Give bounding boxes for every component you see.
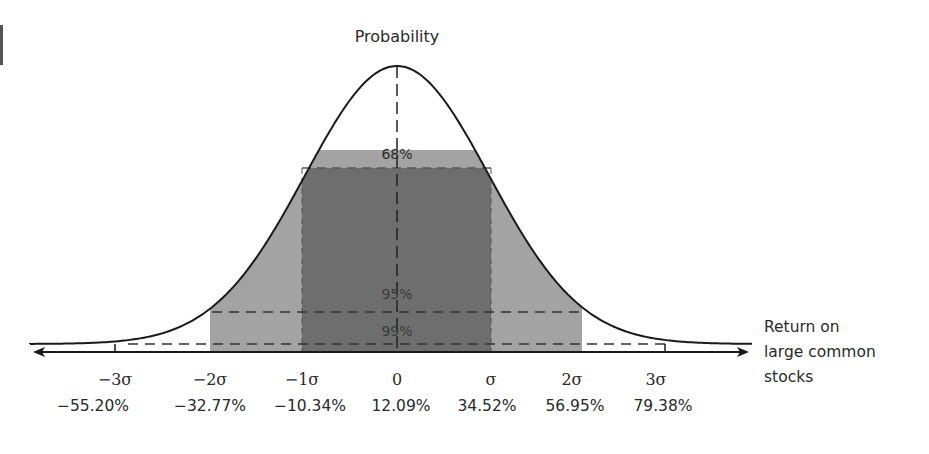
- sigma-label: 2σ: [561, 370, 582, 389]
- sigma-label: −2σ: [193, 370, 228, 389]
- value-label: 12.09%: [371, 397, 430, 415]
- chart-title: Probability: [355, 27, 440, 46]
- value-label: 34.52%: [457, 397, 516, 415]
- value-label: 79.38%: [633, 397, 692, 415]
- sigma-label: 0: [392, 370, 402, 389]
- value-label: −32.77%: [174, 397, 246, 415]
- label-68: 68%: [381, 146, 412, 162]
- axis-label-line2: large common: [764, 343, 876, 361]
- sigma-label: −1σ: [285, 370, 320, 389]
- normal-distribution-chart: Probability 68% 95% 99% Return on large …: [0, 0, 929, 454]
- x-tick-labels: −3σ −2σ −1σ 0 σ 2σ 3σ −55.20% −32.77% −1…: [57, 370, 693, 415]
- axis-label-line3: stocks: [764, 368, 813, 386]
- axis-label-line1: Return on: [764, 318, 840, 336]
- label-99: 99%: [381, 323, 412, 339]
- value-label: −10.34%: [274, 397, 346, 415]
- value-label: 56.95%: [545, 397, 604, 415]
- sigma-label: σ: [486, 370, 497, 389]
- label-95: 95%: [381, 286, 412, 302]
- sigma-label: −3σ: [98, 370, 133, 389]
- sigma-label: 3σ: [645, 370, 666, 389]
- value-label: −55.20%: [57, 397, 129, 415]
